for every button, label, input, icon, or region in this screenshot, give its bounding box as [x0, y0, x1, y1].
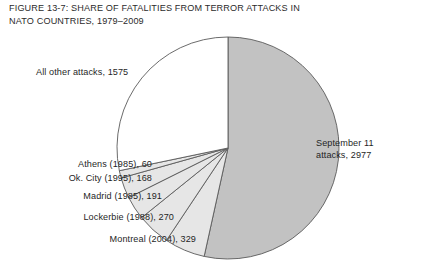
slice-label-lockerbie-text: Lockerbie (1988), 270 [4, 211, 174, 223]
slice-label-september-11-line-2: attacks, 2977 [316, 149, 428, 161]
slice-label-september-11-line-1: September 11 [316, 137, 428, 149]
slice-label-all-other-attacks: All other attacks, 1575 [36, 66, 128, 78]
slice-label-montreal: Montreal (2004), 329 [4, 233, 196, 245]
pie-slice [117, 37, 228, 171]
slice-label-athens: Athens (1985), 60 [4, 158, 152, 170]
slice-label-all-other-attacks-text: All other attacks, 1575 [36, 66, 128, 78]
slice-label-lockerbie: Lockerbie (1988), 270 [4, 211, 174, 223]
slice-label-september-11: September 11 attacks, 2977 [316, 137, 428, 161]
figure-container: FIGURE 13-7: SHARE OF FATALITIES FROM TE… [0, 0, 430, 264]
slice-label-athens-text: Athens (1985), 60 [4, 158, 152, 170]
slice-label-montreal-text: Montreal (2004), 329 [4, 233, 196, 245]
slice-label-madrid-text: Madrid (1985), 191 [4, 190, 162, 202]
slice-label-madrid: Madrid (1985), 191 [4, 190, 162, 202]
pie-slice-group [117, 37, 339, 259]
pie-chart [0, 0, 430, 264]
slice-label-ok-city-text: Ok. City (1995), 168 [4, 172, 152, 184]
slice-label-ok-city: Ok. City (1995), 168 [4, 172, 152, 184]
